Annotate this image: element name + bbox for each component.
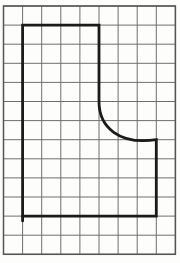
grid-figure <box>0 0 180 263</box>
worksheet-page <box>0 0 180 263</box>
